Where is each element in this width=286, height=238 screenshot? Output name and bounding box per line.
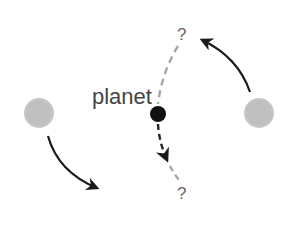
- possible-path-lower: [170, 166, 180, 181]
- planet-dot: [150, 106, 166, 122]
- question-mark-bottom: ?: [177, 184, 186, 203]
- possible-path-upper: [158, 46, 178, 104]
- planet-motion-arrow: [158, 124, 167, 160]
- left-star-motion-arrow: [48, 136, 97, 188]
- question-mark-top: ?: [177, 25, 186, 44]
- right-star: [244, 98, 274, 128]
- planet-label: planet: [92, 84, 152, 109]
- right-star-motion-arrow: [202, 40, 250, 92]
- left-star: [24, 98, 54, 128]
- planet-orbit-diagram: planet ? ?: [0, 0, 286, 238]
